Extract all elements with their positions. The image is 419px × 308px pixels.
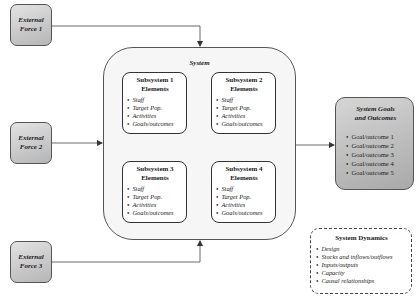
list-item: Goal/outcome 1 xyxy=(342,132,409,141)
list-item: Design xyxy=(316,245,407,253)
dynamics-title: System Dynamics xyxy=(316,234,407,243)
list-item: Staff xyxy=(216,185,272,193)
list-item: Target Pop. xyxy=(216,193,272,201)
list-item: Target Pop. xyxy=(127,193,183,201)
subsystem-title: Subsystem 1Elements xyxy=(127,76,183,93)
list-item: Goal/outcome 2 xyxy=(342,141,409,150)
list-item: Capacity xyxy=(316,269,407,277)
subsystem-1: Subsystem 1Elements Staff Target Pop. Ac… xyxy=(122,72,187,134)
external-force-3: ExternalForce 3 xyxy=(10,241,52,283)
list-item: Goals/outcomes xyxy=(216,120,272,128)
list-item: Goals/outcomes xyxy=(216,209,272,217)
list-item: Activities xyxy=(216,201,272,209)
external-force-1: ExternalForce 1 xyxy=(10,4,52,46)
list-item: Staff xyxy=(216,96,272,104)
list-item: Staff xyxy=(127,96,183,104)
list-item: Target Pop. xyxy=(127,104,183,112)
list-item: Goals/outcomes xyxy=(127,209,183,217)
force1-arrow xyxy=(52,26,200,46)
system-goals-box: System Goalsand Outcomes Goal/outcome 1 … xyxy=(335,97,414,190)
list-item: Target Pop. xyxy=(216,104,272,112)
subsystem-title: Subsystem 4Elements xyxy=(216,165,272,182)
system-dynamics-box: System Dynamics Design Stocks and inflow… xyxy=(310,228,412,294)
list-item: Goal/outcome 4 xyxy=(342,159,409,168)
subsystem-title: Subsystem 3Elements xyxy=(127,165,183,182)
list-item: Activities xyxy=(216,112,272,120)
list-item: Stocks and inflows/outflows xyxy=(316,253,407,261)
list-item: Activities xyxy=(127,112,183,120)
list-item: Staff xyxy=(127,185,183,193)
list-item: Goal/outcome 3 xyxy=(342,150,409,159)
subsystem-2: Subsystem 2Elements Staff Target Pop. Ac… xyxy=(211,72,276,134)
subsystem-3: Subsystem 3Elements Staff Target Pop. Ac… xyxy=(122,161,187,223)
subsystem-title: Subsystem 2Elements xyxy=(216,76,272,93)
external-force-2: ExternalForce 2 xyxy=(10,122,52,164)
list-item: Activities xyxy=(127,201,183,209)
subsystem-4: Subsystem 4Elements Staff Target Pop. Ac… xyxy=(211,161,276,223)
list-item: Goal/outcome 5 xyxy=(342,168,409,177)
goals-title: System Goalsand Outcomes xyxy=(342,105,409,123)
system-title: System xyxy=(104,59,295,67)
list-item: Inputs/outputs xyxy=(316,261,407,269)
list-item: Causal relationships xyxy=(316,277,407,285)
force3-arrow xyxy=(52,241,200,262)
list-item: Goals/outcomes xyxy=(127,120,183,128)
